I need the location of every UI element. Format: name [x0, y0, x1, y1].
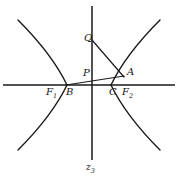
- point-label-q-text: Q: [84, 32, 92, 43]
- segment-b-to-a: [66, 76, 124, 85]
- point-label-p: P: [83, 68, 90, 78]
- right-branch-lower-curve: [111, 85, 160, 150]
- axis-label-z3: z3: [86, 163, 95, 174]
- right-branch-upper-curve: [111, 20, 160, 85]
- point-label-f1: F1: [46, 87, 57, 100]
- point-label-a: A: [127, 67, 134, 77]
- hyperbola-figure: Q P A B C F1 F2 z3: [0, 0, 178, 186]
- segment-q-to-a: [92, 40, 124, 77]
- axis-label-z3-sub: 3: [91, 167, 95, 175]
- point-label-f1-text: F: [46, 86, 53, 97]
- point-label-q: Q: [84, 33, 92, 43]
- point-label-f2: F2: [122, 87, 133, 100]
- left-branch-lower-curve: [18, 85, 67, 150]
- figure-canvas: [0, 0, 178, 186]
- left-branch-upper-curve: [18, 20, 67, 85]
- point-label-p-text: P: [83, 67, 90, 78]
- point-label-f2-sub: 2: [129, 92, 133, 100]
- point-label-a-text: A: [127, 66, 134, 77]
- point-label-c: C: [109, 87, 117, 97]
- point-label-c-text: C: [109, 86, 117, 97]
- point-label-b: B: [66, 87, 73, 97]
- point-label-f1-sub: 1: [53, 92, 57, 100]
- point-label-b-text: B: [66, 86, 73, 97]
- point-label-f2-text: F: [122, 86, 129, 97]
